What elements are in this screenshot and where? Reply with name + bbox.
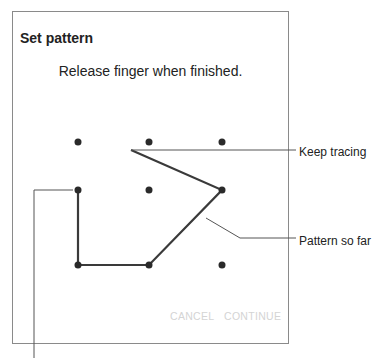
pattern-dot-3[interactable] (219, 139, 226, 146)
start-point-leader (34, 190, 73, 358)
callout-pattern-so-far: Pattern so far (299, 234, 371, 248)
pattern-dot-7[interactable] (75, 262, 82, 269)
pattern-dot-8[interactable] (146, 262, 153, 269)
pattern-dot-4[interactable] (75, 187, 82, 194)
pattern-dot-5[interactable] (146, 187, 153, 194)
pattern-dot-9[interactable] (219, 262, 226, 269)
pattern-dot-1[interactable] (75, 139, 82, 146)
callout-keep-tracing: Keep tracing (299, 145, 366, 159)
traced-pattern-path (78, 150, 222, 265)
cancel-button[interactable]: CANCEL (170, 310, 214, 322)
pattern-dot-6[interactable] (219, 187, 226, 194)
continue-button[interactable]: CONTINUE (224, 310, 281, 322)
pattern-dot-2[interactable] (146, 139, 153, 146)
pattern-so-far-leader (206, 218, 296, 238)
pattern-canvas[interactable] (0, 0, 374, 358)
